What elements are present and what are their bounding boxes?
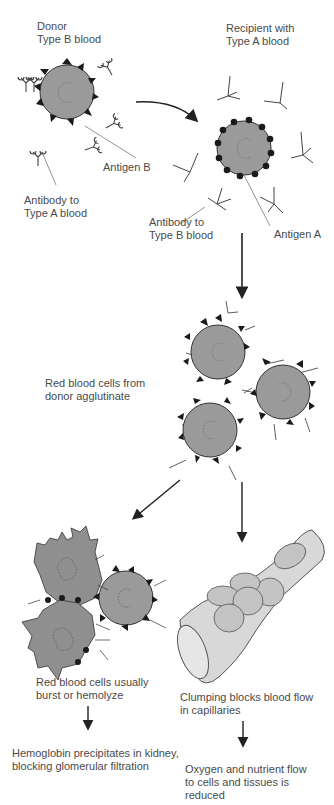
hemolyze-label: Red blood cells usually burst or hemolyz… [36, 676, 149, 702]
hemolyzed-cells [22, 526, 166, 680]
antigen-a-label: Antigen A [274, 228, 321, 241]
antigen-b-label: Antigen B [103, 161, 151, 174]
donor-label: Donor Type B blood [37, 20, 101, 46]
oxygen-label: Oxygen and nutrient flow to cells and ti… [185, 763, 307, 802]
recipient-label: Recipient with Type A blood [226, 22, 294, 48]
capillary [171, 530, 324, 683]
donor-red-blood-cell [34, 58, 99, 126]
recipient-red-blood-cell [215, 117, 275, 180]
antibody-type-b-label: Antibody to Type B blood [149, 216, 213, 242]
hemoglobin-label: Hemoglobin precipitates in kidney, block… [12, 747, 179, 773]
agglutinate-label: Red blood cells from donor agglutinate [45, 377, 145, 403]
antibody-type-a-label: Antibody to Type A blood [24, 194, 87, 220]
clumping-label: Clumping blocks blood flow in capillarie… [180, 691, 313, 717]
agglutinated-cells [169, 301, 318, 480]
